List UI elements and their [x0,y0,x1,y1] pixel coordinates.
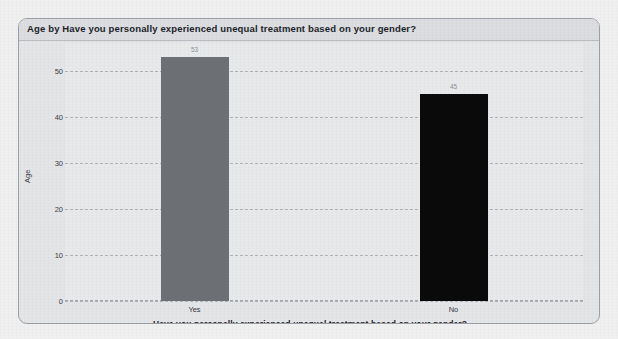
y-tick-label: 50 [33,66,63,75]
y-tick-label: 30 [33,158,63,167]
x-axis-label: Have you personally experienced unequal … [19,319,600,324]
y-axis: Age 01020304050 [31,43,63,301]
plot-area: 5345 [65,43,583,301]
gridline [65,71,583,72]
x-tick-label: No [424,305,484,314]
x-axis-baseline [65,300,583,301]
gridline [65,163,583,164]
gridline [65,117,583,118]
bar-value-label: 53 [175,46,215,53]
y-tick-label: 40 [33,112,63,121]
gridline [65,301,583,302]
y-tick-label: 0 [33,297,63,306]
x-tick-label: Yes [165,305,225,314]
chart-title: Age by Have you personally experienced u… [27,23,416,34]
y-tick-label: 10 [33,250,63,259]
y-axis-label: Age [23,170,32,183]
bar-value-label: 45 [434,83,474,90]
chart-card: Age by Have you personally experienced u… [18,18,600,324]
gridline [65,209,583,210]
bar[interactable] [161,57,229,301]
gridline [65,255,583,256]
y-tick-label: 20 [33,204,63,213]
bar[interactable] [420,94,488,301]
